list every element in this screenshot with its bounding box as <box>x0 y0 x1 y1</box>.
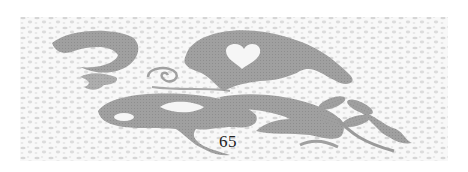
page-number: 65 <box>219 132 237 152</box>
